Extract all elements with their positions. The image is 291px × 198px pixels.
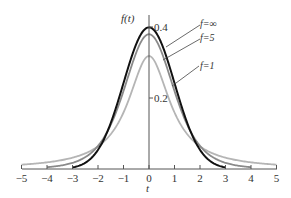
x-tick-label: 1 — [172, 172, 178, 184]
t-distribution-chart: −5−4−3−2−1012345 0.20.4 f(t) t f=∞ f=5 f… — [0, 0, 291, 198]
annotation-leader-f-5 — [163, 39, 200, 60]
x-tick-label: 2 — [197, 172, 203, 184]
annotation-leader-f-inf — [166, 25, 200, 47]
y-axis-title: f(t) — [121, 12, 135, 25]
x-tick-label: −3 — [67, 172, 79, 184]
annotation-f-5: f=5 — [200, 32, 215, 43]
x-tick-label: −2 — [92, 172, 104, 184]
x-tick-label: 5 — [274, 172, 280, 184]
x-tick-label: −1 — [118, 172, 130, 184]
annotation-leader-f-1 — [172, 66, 199, 86]
y-tick-label: 0.4 — [154, 21, 168, 33]
x-tick-label: 3 — [223, 172, 229, 184]
x-tick-label: −4 — [41, 172, 53, 184]
annotation-f-1: f=1 — [200, 60, 215, 71]
annotation-f-inf: f=∞ — [200, 18, 217, 29]
y-tick-label: 0.2 — [154, 92, 168, 104]
x-tick-label: 4 — [248, 172, 254, 184]
x-tick-label: −5 — [16, 172, 28, 184]
